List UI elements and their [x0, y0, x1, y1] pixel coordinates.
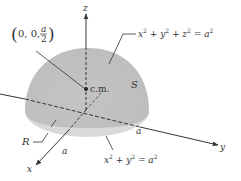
z-axis-label: z — [82, 3, 88, 13]
center-of-mass-point — [84, 87, 88, 91]
y-axis — [140, 127, 218, 145]
x-axis-label: x — [27, 164, 32, 174]
radius-x-label: a — [62, 146, 67, 156]
region-label: R — [21, 136, 30, 147]
svg-text:): ) — [48, 24, 55, 44]
center-of-mass-label: c.m. — [90, 84, 109, 94]
radius-y-label: a — [136, 126, 141, 136]
cm-coordinates-label: ( 0, 0, a 2 ) — [11, 24, 55, 44]
svg-text:2: 2 — [41, 34, 47, 44]
svg-text:a: a — [41, 24, 46, 34]
sphere-equation-label: x2 + y2 + z2 = a2 — [138, 27, 214, 39]
svg-text:(: ( — [11, 24, 18, 44]
disk-equation-label: x2 + y2 = a2 — [104, 153, 158, 165]
y-axis-negative — [0, 94, 25, 99]
svg-text:0, 0,: 0, 0, — [18, 28, 40, 39]
y-axis-label: y — [219, 142, 226, 152]
hemisphere-diagram: z y x ( 0, 0, a 2 ) c.m. S x2 + y2 + z2 … — [0, 0, 241, 181]
region-leader-line — [33, 133, 48, 142]
surface-label: S — [131, 79, 138, 90]
disk-eq-leader-line — [106, 136, 113, 150]
